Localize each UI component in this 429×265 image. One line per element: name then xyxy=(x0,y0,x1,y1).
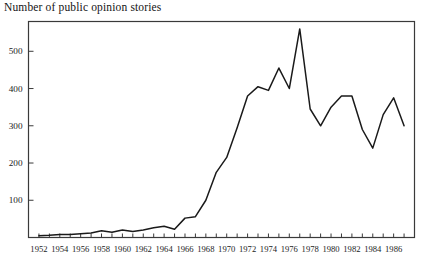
x-tick-label: 1958 xyxy=(93,244,110,254)
x-tick-label: 1962 xyxy=(135,244,152,254)
plot-frame xyxy=(29,22,415,238)
x-tick-label: 1960 xyxy=(114,244,131,254)
x-tick-label: 1976 xyxy=(281,244,299,254)
x-tick-label: 1986 xyxy=(385,244,403,254)
x-tick-label: 1974 xyxy=(260,244,278,254)
y-tick-label: 200 xyxy=(9,158,23,168)
x-axis-tick-labels: 1952195419561958196019621964196619681970… xyxy=(30,244,403,254)
chart-figure: Number of public opinion stories 1002003… xyxy=(0,0,429,265)
y-tick-label: 300 xyxy=(9,121,23,131)
x-tick-label: 1978 xyxy=(302,244,319,254)
x-tick-label: 1956 xyxy=(72,244,90,254)
x-tick-label: 1972 xyxy=(239,244,256,254)
y-tick-label: 400 xyxy=(9,84,23,94)
y-tick-label: 500 xyxy=(9,46,23,56)
x-tick-label: 1968 xyxy=(197,244,214,254)
line-chart-plot: 100200300400500 195219541956195819601962… xyxy=(0,0,429,265)
x-tick-label: 1980 xyxy=(322,244,339,254)
x-tick-label: 1952 xyxy=(30,244,47,254)
x-tick-label: 1982 xyxy=(343,244,360,254)
x-tick-label: 1984 xyxy=(364,244,382,254)
y-tick-label: 100 xyxy=(9,195,23,205)
x-tick-label: 1966 xyxy=(176,244,194,254)
x-tick-label: 1964 xyxy=(156,244,174,254)
x-tick-label: 1970 xyxy=(218,244,235,254)
x-tick-label: 1954 xyxy=(51,244,69,254)
y-axis-tick-labels: 100200300400500 xyxy=(9,46,23,205)
